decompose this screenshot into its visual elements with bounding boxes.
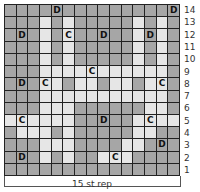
chart-cell [63, 152, 74, 163]
chart-cell [17, 139, 28, 150]
chart-cell [122, 29, 133, 40]
chart-cell [28, 91, 39, 102]
chart-cell [40, 103, 51, 114]
chart-cell [40, 66, 51, 77]
chart-cell [87, 152, 98, 163]
chart-cell [17, 54, 28, 65]
chart-cell: C [110, 152, 121, 163]
chart-cell [122, 103, 133, 114]
chart-cell [110, 78, 121, 89]
chart-cell: C [145, 115, 156, 126]
chart-cell [5, 103, 16, 114]
chart-cell [87, 42, 98, 53]
chart-cell [133, 17, 144, 28]
chart-cell [63, 164, 74, 175]
row-number: 11 [181, 41, 200, 53]
chart-cell [145, 91, 156, 102]
chart-cell [145, 164, 156, 175]
chart-cell [122, 127, 133, 138]
repeat-label: 15 st rep [4, 179, 180, 189]
chart-cell [145, 152, 156, 163]
chart-cell [28, 164, 39, 175]
chart-cell [5, 139, 16, 150]
chart-cell [40, 139, 51, 150]
chart-cell [87, 127, 98, 138]
chart-cell [63, 54, 74, 65]
chart-cell [157, 54, 168, 65]
chart-cell [110, 29, 121, 40]
chart-cell [157, 42, 168, 53]
chart-cell [98, 78, 109, 89]
chart-cell [40, 54, 51, 65]
chart-cell [40, 29, 51, 40]
chart-cell [110, 139, 121, 150]
chart-cell [75, 164, 86, 175]
chart-cell [5, 152, 16, 163]
chart-cell [75, 17, 86, 28]
chart-cell [63, 91, 74, 102]
chart-cell [52, 42, 63, 53]
chart-cell [145, 78, 156, 89]
chart-cell [122, 152, 133, 163]
chart-cell [75, 139, 86, 150]
chart-cell [157, 152, 168, 163]
chart-cell [87, 91, 98, 102]
chart-cell [63, 115, 74, 126]
chart-cell [145, 66, 156, 77]
chart-cell [122, 54, 133, 65]
chart-cell [87, 164, 98, 175]
chart-cell: C [17, 115, 28, 126]
chart-cell [75, 29, 86, 40]
chart-cell [168, 152, 179, 163]
chart-cell [133, 115, 144, 126]
chart-cell: C [63, 29, 74, 40]
chart-cell [122, 91, 133, 102]
row-number: 5 [181, 115, 200, 127]
chart-cell [40, 115, 51, 126]
chart-cell [75, 66, 86, 77]
chart-cell [28, 42, 39, 53]
chart-cell [110, 54, 121, 65]
chart-cell [17, 42, 28, 53]
chart-cell: C [87, 66, 98, 77]
chart-cell [110, 103, 121, 114]
knitting-chart: DDDCDDCDCCCDCDDC [4, 4, 180, 176]
chart-cell [87, 78, 98, 89]
chart-cell [28, 103, 39, 114]
chart-cell: D [98, 29, 109, 40]
chart-cell [28, 17, 39, 28]
chart-cell [98, 139, 109, 150]
chart-cell [98, 42, 109, 53]
chart-cell [52, 139, 63, 150]
chart-cell: D [17, 29, 28, 40]
chart-cell [5, 17, 16, 28]
chart-cell [157, 29, 168, 40]
chart-cell [157, 127, 168, 138]
row-number: 1 [181, 164, 200, 176]
chart-cell [110, 164, 121, 175]
chart-cell [52, 152, 63, 163]
chart-cell [145, 127, 156, 138]
chart-cell [28, 29, 39, 40]
chart-cell [5, 54, 16, 65]
chart-cell [28, 78, 39, 89]
chart-cell [17, 103, 28, 114]
chart-cell [52, 66, 63, 77]
chart-cell [133, 42, 144, 53]
chart-cell [87, 139, 98, 150]
chart-cell [63, 5, 74, 16]
chart-cell [98, 54, 109, 65]
chart-cell [63, 78, 74, 89]
row-number: 13 [181, 16, 200, 28]
chart-cell [122, 115, 133, 126]
chart-cell [52, 103, 63, 114]
chart-cell [75, 152, 86, 163]
chart-cell [133, 91, 144, 102]
chart-cell [75, 127, 86, 138]
row-number: 14 [181, 4, 200, 16]
row-number: 8 [181, 78, 200, 90]
chart-cell [52, 17, 63, 28]
chart-cell [168, 66, 179, 77]
chart-cell: D [52, 5, 63, 16]
row-number: 12 [181, 29, 200, 41]
